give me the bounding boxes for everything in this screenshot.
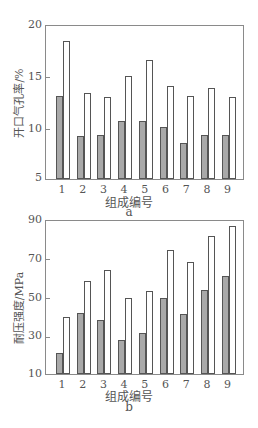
bar-white-8 <box>208 236 215 374</box>
bar-gray-8 <box>201 290 208 374</box>
bar-gray-9 <box>222 276 229 374</box>
bar-gray-3 <box>97 320 104 374</box>
bar-white-6 <box>167 250 174 374</box>
bar-gray-5 <box>139 333 146 374</box>
bar-white-7 <box>187 262 194 374</box>
bar-gray-7 <box>180 314 187 374</box>
chart-b: 耐压强度/MPa 90 70 50 30 10 123456789 组成编号 b <box>0 0 258 428</box>
bar-gray-4 <box>118 340 125 374</box>
bar-white-1 <box>63 317 70 374</box>
bar-white-3 <box>104 270 111 374</box>
bar-gray-2 <box>77 313 84 374</box>
bar-white-4 <box>125 298 132 374</box>
y-tick: 70 <box>20 252 42 265</box>
y-axis-label: 耐压强度/MPa <box>10 248 26 368</box>
bar-white-2 <box>84 281 91 374</box>
bar-white-5 <box>146 291 153 374</box>
tick-mark <box>46 298 50 299</box>
y-tick: 10 <box>20 367 42 380</box>
panel-caption: b <box>0 400 258 414</box>
y-tick: 90 <box>20 213 42 226</box>
plot-area-b <box>45 220 244 375</box>
y-tick: 50 <box>20 291 42 304</box>
tick-mark <box>46 337 50 338</box>
bar-gray-6 <box>160 298 167 375</box>
y-tick: 30 <box>20 329 42 342</box>
bar-gray-1 <box>56 353 63 374</box>
bar-white-9 <box>229 226 236 374</box>
tick-mark <box>46 259 50 260</box>
